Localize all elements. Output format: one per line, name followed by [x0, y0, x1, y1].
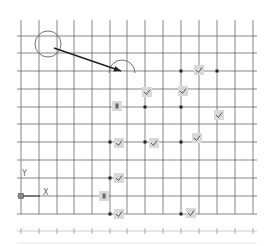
marker-background: [186, 208, 196, 218]
canvas-background: [0, 0, 267, 246]
check-marker-icon[interactable]: [114, 173, 124, 183]
marker-background: [114, 209, 124, 219]
grip-dot[interactable]: [109, 213, 112, 216]
check-marker-icon[interactable]: [178, 86, 188, 96]
grip-dot[interactable]: [216, 70, 219, 73]
check-marker-icon[interactable]: [192, 133, 202, 143]
marker-background: [114, 173, 124, 183]
check-marker-icon[interactable]: [194, 65, 204, 75]
check-marker-icon[interactable]: [186, 208, 196, 218]
marker-background: [194, 65, 204, 75]
marker-background: [192, 133, 202, 143]
grip-dot[interactable]: [109, 177, 112, 180]
grip-dot[interactable]: [144, 106, 147, 109]
marker-background: [178, 86, 188, 96]
grip-dot[interactable]: [144, 141, 147, 144]
marker-background: [142, 87, 152, 97]
grip-dot[interactable]: [180, 106, 183, 109]
grip-dot[interactable]: [180, 70, 183, 73]
grip-dot[interactable]: [180, 213, 183, 216]
ucs-y-label: Y: [21, 169, 27, 178]
check-marker-icon[interactable]: [142, 87, 152, 97]
grip-dot[interactable]: [180, 141, 183, 144]
check-marker-icon[interactable]: [114, 209, 124, 219]
ucs-origin-icon: [19, 194, 24, 199]
square-glyph-icon: [116, 104, 119, 109]
grip-dot[interactable]: [109, 141, 112, 144]
square-glyph-icon: [103, 194, 106, 199]
drawing-canvas[interactable]: Y X: [0, 0, 267, 246]
square-marker-icon[interactable]: [99, 191, 109, 201]
square-marker-icon[interactable]: [112, 101, 122, 111]
check-marker-icon[interactable]: [149, 138, 159, 148]
marker-background: [149, 138, 159, 148]
ucs-x-label: X: [43, 188, 49, 197]
marker-background: [214, 110, 224, 120]
check-marker-icon[interactable]: [214, 110, 224, 120]
check-marker-icon[interactable]: [114, 138, 124, 148]
marker-background: [114, 138, 124, 148]
